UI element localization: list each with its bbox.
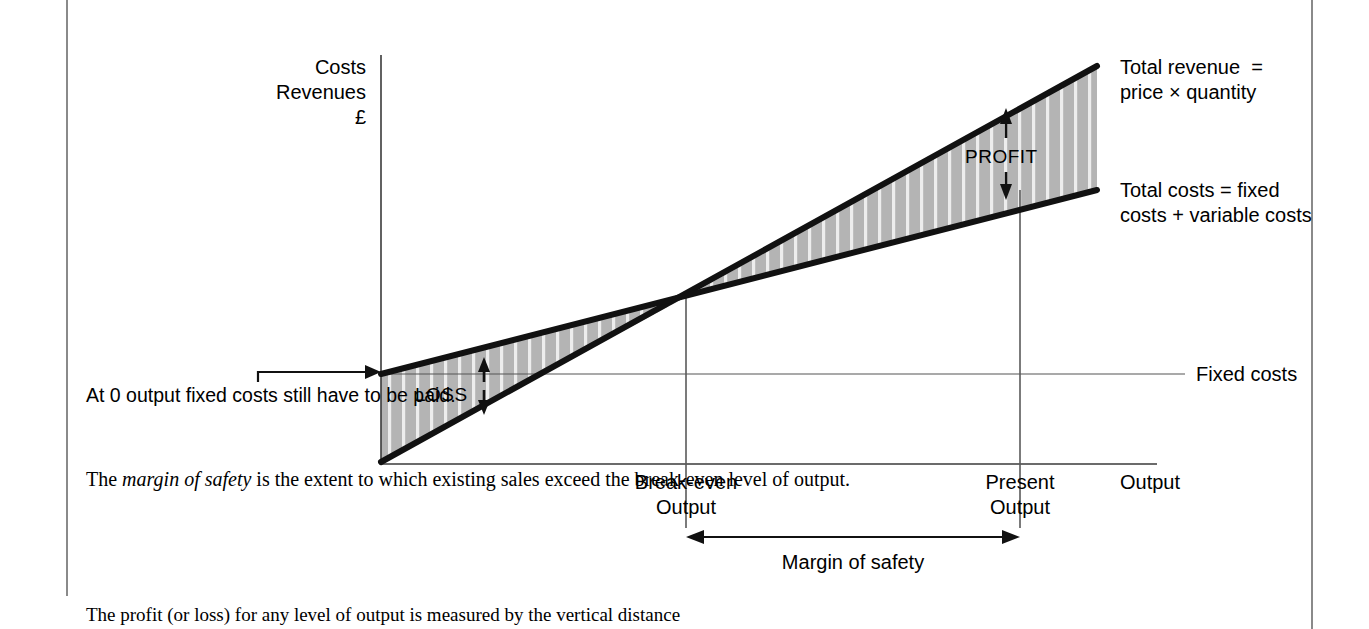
x-axis-label: Output xyxy=(1120,470,1180,495)
note-margin-italic: margin of safety xyxy=(122,468,251,490)
present-label-line1: Present xyxy=(986,471,1055,493)
note-zero-output: At 0 output fixed costs still have to be… xyxy=(86,383,376,407)
y-axis-label-revenues: Revenues xyxy=(276,81,366,103)
fixed-cost-callout-arrow xyxy=(258,365,381,382)
note-margin-post: is the extent to which existing sales ex… xyxy=(251,468,850,490)
figure-caption: The profit (or loss) for any level of ou… xyxy=(86,603,680,628)
total-costs-label: Total costs = fixedcosts + variable cost… xyxy=(1120,178,1312,228)
present-output-label: PresentOutput xyxy=(952,470,1088,520)
total-revenue-label-line1: Total revenue = xyxy=(1120,56,1263,78)
present-label-line2: Output xyxy=(990,496,1050,518)
margin-of-safety-arrow xyxy=(686,530,1020,544)
y-axis-label-costs: Costs xyxy=(315,56,366,78)
breakeven-label-line2: Output xyxy=(656,496,716,518)
fixed-costs-label: Fixed costs xyxy=(1196,362,1297,387)
figure-root: CostsRevenues£ Total revenue =price × qu… xyxy=(0,0,1369,629)
total-costs-label-line1: Total costs = fixed xyxy=(1120,179,1280,201)
margin-of-safety-label: Margin of safety xyxy=(700,550,1006,575)
note-margin-of-safety: The margin of safety is the extent to wh… xyxy=(86,466,386,493)
profit-region-label: PROFIT xyxy=(965,145,1038,169)
note-margin-pre: The xyxy=(86,468,122,490)
total-costs-line xyxy=(381,190,1097,374)
total-revenue-label-line2: price × quantity xyxy=(1120,81,1256,103)
y-axis-label-currency: £ xyxy=(355,106,366,128)
y-axis-label: CostsRevenues£ xyxy=(246,55,366,129)
total-costs-label-line2: costs + variable costs xyxy=(1120,204,1312,226)
total-revenue-label: Total revenue =price × quantity xyxy=(1120,55,1263,105)
